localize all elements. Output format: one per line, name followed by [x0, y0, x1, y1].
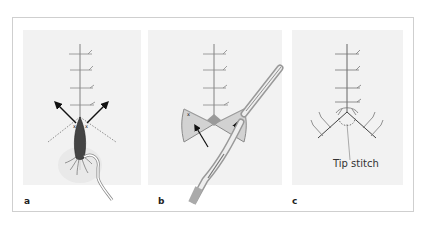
svg-text:x: x [187, 111, 190, 117]
svg-text:x: x [85, 123, 88, 129]
panel-b-label: b [158, 196, 164, 206]
panel-c-drawing [311, 44, 383, 160]
tip-stitch-annotation: Tip stitch [333, 158, 379, 169]
svg-text:x: x [73, 123, 76, 129]
panel-a-label: a [24, 196, 30, 206]
panel-c-label: c [292, 196, 297, 206]
illustration: x x x x [0, 0, 429, 229]
panel-b-drawing: x x [182, 44, 281, 203]
panel-a-drawing: x x [48, 44, 116, 200]
